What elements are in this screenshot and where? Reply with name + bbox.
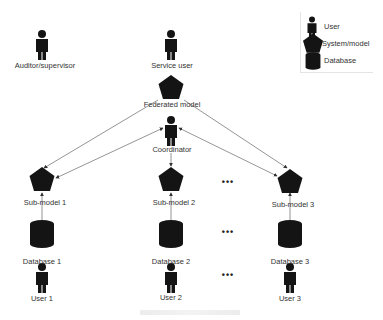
submodel-1-label: Sub-model 1 bbox=[24, 198, 67, 207]
federated-model-pentagon-icon bbox=[159, 75, 184, 99]
coordinator-label: Coordinator bbox=[152, 145, 191, 154]
user-2-icon bbox=[165, 263, 177, 293]
edge-federated-submodel3 bbox=[184, 100, 287, 168]
submodel-3-pentagon-icon bbox=[278, 169, 303, 193]
legend-label-database: Database bbox=[324, 56, 356, 65]
submodel-1-pentagon-icon bbox=[30, 167, 55, 191]
submodel-3-label: Sub-model 3 bbox=[272, 200, 315, 209]
service-user-icon bbox=[165, 30, 177, 60]
figure-caption bbox=[140, 310, 240, 315]
ellipsis-users: ••• bbox=[222, 270, 234, 280]
auditor-user-icon bbox=[36, 30, 48, 60]
database-3-label: Database 3 bbox=[271, 257, 309, 266]
coordinator-user-icon bbox=[165, 116, 177, 146]
database-1-icon bbox=[30, 220, 54, 248]
user-1-icon bbox=[36, 263, 48, 293]
user-1-label: User 1 bbox=[31, 294, 53, 303]
ellipsis-submodels: ••• bbox=[222, 177, 234, 187]
submodel-2-label: Sub-model 2 bbox=[153, 198, 196, 207]
submodel-2-pentagon-icon bbox=[159, 167, 184, 191]
edge-coordinator-submodel1 bbox=[56, 128, 163, 178]
federated-model-label: Federated model bbox=[144, 100, 201, 109]
auditor-label: Auditor/supervisor bbox=[15, 61, 75, 70]
database-2-label: Database 2 bbox=[152, 257, 190, 266]
legend-label-user: User bbox=[324, 22, 340, 31]
legend-label-system-model: System/model bbox=[322, 39, 370, 48]
user-2-label: User 2 bbox=[160, 293, 182, 302]
database-3-icon bbox=[278, 220, 302, 248]
user-3-icon bbox=[284, 263, 296, 293]
edge-federated-submodel1 bbox=[44, 100, 158, 168]
user-3-label: User 3 bbox=[279, 294, 301, 303]
database-1-label: Database 1 bbox=[23, 257, 61, 266]
ellipsis-databases: ••• bbox=[222, 227, 234, 237]
database-2-icon bbox=[159, 220, 183, 248]
service-user-label: Service user bbox=[151, 61, 193, 70]
